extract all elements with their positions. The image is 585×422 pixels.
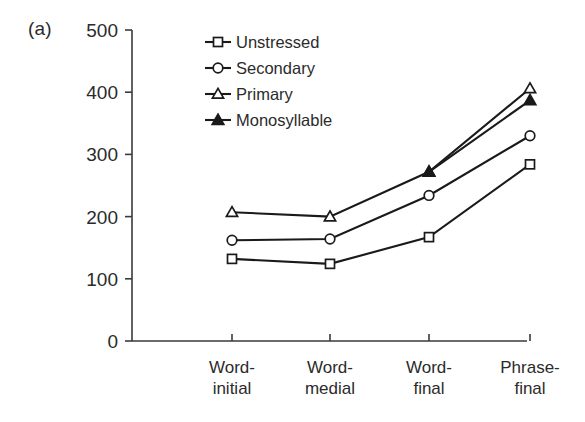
x-axis-category-labels: Word-initialWord-medialWord-finalPhrase-… [209,358,560,398]
legend-item-secondary: Secondary [205,59,316,77]
legend-label: Primary [236,85,294,103]
legend-label: Unstressed [236,33,319,51]
figure-panel-a: (a) 0100200300400500 Word-initialWord-me… [0,0,585,422]
y-tick-label: 0 [107,331,118,352]
legend-label: Monosyllable [236,111,332,129]
y-axis-ticks [125,30,132,341]
y-tick-label: 300 [86,144,118,165]
series-line-secondary [232,136,530,240]
y-tick-label: 400 [86,82,118,103]
chart-legend: UnstressedSecondaryPrimaryMonosyllable [205,33,332,129]
series-marker-unstressed [326,259,335,268]
legend-marker-open-square [214,38,223,47]
legend-item-primary: Primary [205,85,294,103]
y-axis-tick-labels: 0100200300400500 [86,20,118,352]
series-marker-secondary [424,191,434,201]
x-category-label: Phrase-final [500,358,560,398]
series-marker-unstressed [526,160,535,169]
series-line-monosyllable [429,100,530,172]
x-axis-ticks [232,334,530,341]
y-tick-label: 100 [86,269,118,290]
series-marker-unstressed [425,233,434,242]
series-marker-primary [524,83,535,93]
series-marker-secondary [525,131,535,141]
series-marker-secondary [325,234,335,244]
y-tick-label: 500 [86,20,118,41]
x-category-label: Word-final [406,358,452,398]
chart-axes [132,30,527,341]
series-marker-secondary [227,235,237,245]
x-category-label: Word-initial [209,358,255,398]
series-marker-unstressed [228,254,237,263]
legend-label: Secondary [236,59,316,77]
legend-marker-open-circle [213,63,223,73]
line-chart: 0100200300400500 Word-initialWord-medial… [0,0,585,422]
legend-item-unstressed: Unstressed [205,33,319,51]
y-tick-label: 200 [86,207,118,228]
x-category-label: Word-medial [305,358,355,398]
legend-item-monosyllable: Monosyllable [205,111,332,129]
series-marker-monosyllable [524,94,536,104]
